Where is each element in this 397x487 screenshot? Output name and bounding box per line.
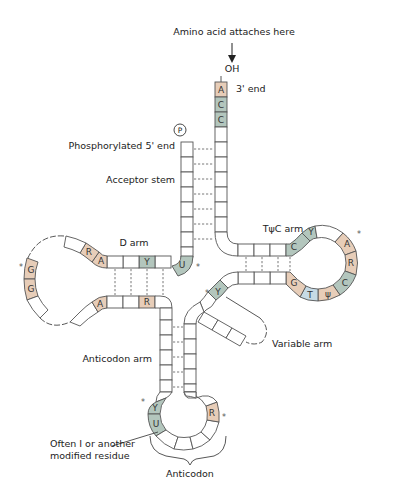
five-prime-label: Phosphorylated 5' end [68,140,175,151]
tpsic-loop: A * R C ψ T G [286,225,361,301]
anticodon-loop: Y * U R * [141,392,226,450]
tpsic-arm-label: TψC arm [262,223,304,234]
anticodon-hbonds [173,327,183,387]
anticodon-arm-left-strand [160,308,172,392]
amino-acid-label: Amino acid attaches here [173,26,295,37]
acceptor-5prime-strand [181,142,193,257]
phosphate-icon: P [174,124,186,136]
svg-text:G: G [28,284,35,294]
acceptor-stem-label: Acceptor stem [106,174,175,185]
variable-arm-label: Variable arm [272,338,332,349]
svg-text:ψ: ψ [325,289,331,299]
svg-text:U: U [179,260,186,270]
svg-text:P: P [178,126,183,135]
svg-text:G: G [28,265,35,275]
svg-text:Y: Y [307,227,314,237]
svg-text:R: R [348,258,354,268]
d-arm-hbonds [115,269,163,295]
svg-text:A: A [98,256,105,266]
anticodon-arm-right-strand [184,302,204,392]
three-prime-label: 3' end [236,83,266,94]
svg-text:C: C [218,115,224,125]
svg-text:*: * [196,263,200,272]
down-arrow-icon [228,43,236,63]
acceptor-hbonds [194,149,214,239]
d-arm-label: D arm [119,237,148,248]
svg-text:*: * [222,413,226,422]
variable-arm: Y * [198,280,267,346]
acceptor-3prime-strand: A C C [215,82,227,232]
wobble-note-line1: Often I or another [50,438,135,449]
svg-text:A: A [344,239,351,249]
svg-text:R: R [144,297,150,307]
wobble-note-line2: modified residue [50,450,130,461]
d-arm-bottom-strand: R [107,296,172,308]
svg-text:C: C [342,278,348,288]
svg-text:*: * [141,398,145,407]
svg-text:C: C [291,242,297,252]
svg-text:Y: Y [214,287,221,297]
tpsic-arm-bottom-strand [220,272,286,288]
svg-text:C: C [218,100,224,110]
trna-diagram: Amino acid attaches here OH 3' end A C C [0,0,397,487]
svg-text:R: R [86,247,92,257]
svg-text:R: R [209,408,215,418]
svg-text:Y: Y [143,257,150,267]
tpsic-hbonds [246,257,290,271]
oh-label: OH [225,63,240,74]
svg-text:T: T [306,290,313,300]
svg-text:*: * [19,263,23,272]
anticodon-arm-label: Anticodon arm [82,353,152,364]
svg-text:A: A [97,299,104,309]
svg-text:*: * [357,230,361,239]
svg-text:A: A [218,85,225,95]
svg-text:G: G [291,278,298,288]
svg-text:U: U [153,419,160,429]
anticodon-label: Anticodon [166,468,214,479]
svg-text:Y: Y [151,403,158,413]
